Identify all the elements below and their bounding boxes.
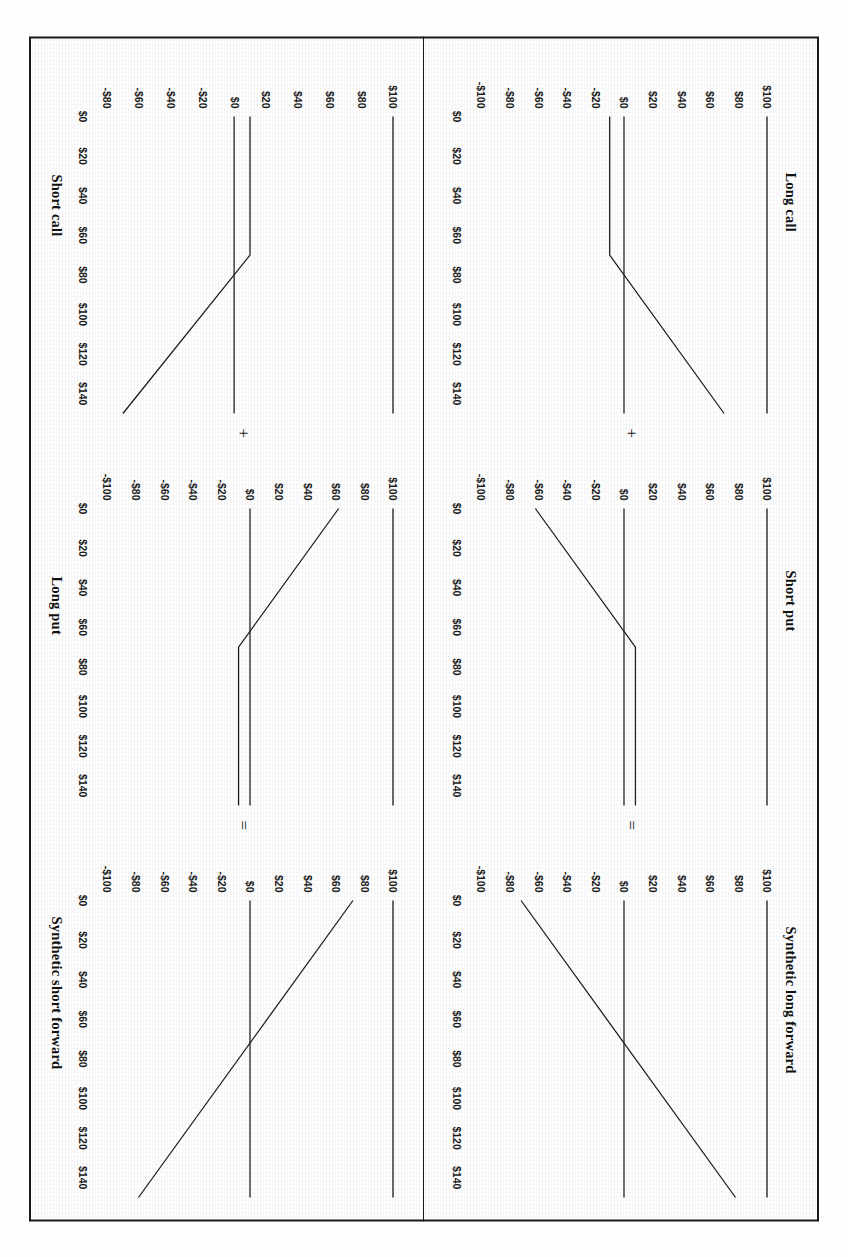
y-tick-label: $0	[618, 488, 630, 500]
y-tick-label: $60	[704, 90, 716, 108]
x-tick-label: $100	[77, 1086, 89, 1110]
panel-short-put: Short put $100$80$60$40$20$0-$20-$40-$60…	[431, 446, 811, 811]
x-tick-label: $0	[77, 502, 89, 514]
y-tick-label: -$40	[561, 871, 573, 892]
y-tick-label: $80	[359, 874, 371, 892]
y-tick-label: $20	[273, 482, 285, 500]
x-tick-label: $60	[451, 618, 463, 636]
plot-svg-long-call: $100$80$60$40$20$0-$20-$40-$60-$80-$100$…	[437, 54, 777, 419]
plot-synthetic-short-forward: $100$80$60$40$20$0-$20-$40-$60-$80-$100$…	[63, 838, 403, 1203]
y-tick-label: -$100	[475, 81, 487, 108]
x-tick-label: $120	[451, 1126, 463, 1150]
x-tick-label: $0	[77, 894, 89, 906]
x-tick-label: $80	[451, 658, 463, 676]
y-tick-label: -$80	[504, 479, 516, 500]
x-tick-label: $20	[451, 539, 463, 557]
chart-title-short-put: Short put	[782, 570, 799, 631]
x-tick-label: $0	[451, 110, 463, 122]
x-tick-label: $120	[451, 342, 463, 366]
y-tick-label: $20	[647, 874, 659, 892]
x-tick-label: $40	[451, 970, 463, 988]
x-tick-label: $20	[451, 931, 463, 949]
y-tick-label: $20	[260, 90, 272, 108]
panel-short-call: $100$80$60$40$20$0-$20-$40-$60-$80$0$20$…	[37, 54, 417, 419]
panel-synthetic-long-forward: Synthetic long forward $100$80$60$40$20$…	[431, 838, 811, 1208]
x-tick-label: $20	[451, 147, 463, 165]
chart-title-short-call: Short call	[48, 174, 65, 236]
x-tick-label: $60	[451, 226, 463, 244]
y-tick-label: $40	[676, 90, 688, 108]
x-tick-label: $100	[451, 694, 463, 718]
y-tick-label: -$20	[590, 871, 602, 892]
plot-long-put: $100$80$60$40$20$0-$20-$40-$60-$80-$100$…	[63, 446, 403, 811]
x-tick-label: $120	[77, 1126, 89, 1150]
plot-short-call: $100$80$60$40$20$0-$20-$40-$60-$80$0$20$…	[63, 54, 403, 419]
y-tick-label: -$60	[159, 479, 171, 500]
y-tick-label: -$60	[533, 871, 545, 892]
y-tick-label: -$40	[187, 871, 199, 892]
y-tick-label: $100	[761, 869, 773, 893]
x-tick-label: $0	[451, 894, 463, 906]
x-tick-label: $80	[77, 1050, 89, 1068]
y-tick-label: $60	[704, 874, 716, 892]
y-tick-label: $80	[733, 482, 745, 500]
x-tick-label: $60	[77, 226, 89, 244]
plot-svg-long-put: $100$80$60$40$20$0-$20-$40-$60-$80-$100$…	[63, 446, 403, 811]
y-tick-label: $60	[330, 482, 342, 500]
y-tick-label: -$20	[590, 87, 602, 108]
x-tick-label: $140	[451, 382, 463, 406]
x-tick-label: $0	[451, 502, 463, 514]
y-tick-label: $80	[733, 90, 745, 108]
panel-synthetic-short-forward: $100$80$60$40$20$0-$20-$40-$60-$80-$100$…	[37, 838, 417, 1208]
y-tick-label: -$20	[197, 87, 209, 108]
y-tick-label: -$80	[130, 479, 142, 500]
y-tick-label: $40	[676, 874, 688, 892]
series-long-call-payoff	[610, 116, 724, 413]
y-tick-label: $40	[292, 90, 304, 108]
x-tick-label: $40	[451, 578, 463, 596]
plot-long-call: $100$80$60$40$20$0-$20-$40-$60-$80-$100$…	[437, 54, 777, 419]
y-tick-label: -$80	[130, 871, 142, 892]
y-tick-label: $100	[761, 85, 773, 109]
y-tick-label: $0	[244, 880, 256, 892]
plot-svg-short-call: $100$80$60$40$20$0-$20-$40-$60-$80$0$20$…	[63, 54, 403, 419]
y-tick-label: $100	[387, 477, 399, 501]
y-tick-label: $40	[302, 874, 314, 892]
rotated-page: Long call $100$80$60$40$20$0-$20-$40-$60…	[29, 36, 819, 1221]
chart-title-long-put: Long put	[48, 576, 65, 634]
y-tick-label: -$20	[590, 479, 602, 500]
plot-synthetic-long-forward: $100$80$60$40$20$0-$20-$40-$60-$80-$100$…	[437, 838, 777, 1203]
y-tick-label: -$80	[504, 871, 516, 892]
y-tick-label: $20	[647, 90, 659, 108]
panel-long-call: Long call $100$80$60$40$20$0-$20-$40-$60…	[431, 54, 811, 419]
x-tick-label: $60	[451, 1010, 463, 1028]
x-tick-label: $20	[77, 147, 89, 165]
y-tick-label: $0	[618, 880, 630, 892]
y-tick-label: $80	[359, 482, 371, 500]
plot-svg-short-put: $100$80$60$40$20$0-$20-$40-$60-$80-$100$…	[437, 446, 777, 811]
y-tick-label: -$60	[159, 871, 171, 892]
chart-title-synthetic-long-forward: Synthetic long forward	[782, 926, 799, 1073]
y-tick-label: $20	[647, 482, 659, 500]
x-tick-label: $120	[451, 734, 463, 758]
y-tick-label: -$80	[101, 87, 113, 108]
y-tick-label: -$20	[216, 479, 228, 500]
series-short-call-payoff	[123, 116, 250, 413]
x-tick-label: $120	[77, 734, 89, 758]
y-tick-label: $60	[704, 482, 716, 500]
operator-plus-row1: +	[621, 428, 641, 438]
y-tick-label: $60	[330, 874, 342, 892]
panel-long-put: $100$80$60$40$20$0-$20-$40-$60-$80-$100$…	[37, 446, 417, 811]
chart-title-synthetic-short-forward: Synthetic short forward	[48, 916, 65, 1069]
y-tick-label: -$80	[504, 87, 516, 108]
y-tick-label: -$60	[533, 479, 545, 500]
y-tick-label: $0	[244, 488, 256, 500]
x-tick-label: $140	[451, 1166, 463, 1190]
x-tick-label: $20	[77, 539, 89, 557]
y-tick-label: -$40	[165, 87, 177, 108]
y-tick-label: $60	[324, 90, 336, 108]
figure-canvas: Long call $100$80$60$40$20$0-$20-$40-$60…	[0, 0, 848, 1257]
y-tick-label: $80	[356, 90, 368, 108]
y-tick-label: -$60	[133, 87, 145, 108]
x-tick-label: $40	[77, 970, 89, 988]
